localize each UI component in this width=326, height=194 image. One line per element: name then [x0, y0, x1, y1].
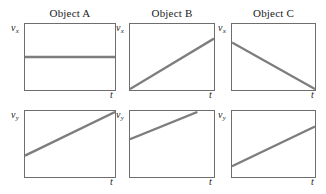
plot-panel-a-vx: [24, 23, 116, 91]
velocity-graphs-figure: Object A Object B Object C vx t vx t vx …: [0, 0, 326, 194]
column-title-object-b: Object B: [129, 7, 215, 19]
x-axis-label-t-a-vx: t: [110, 90, 113, 100]
data-line-c-vx: [232, 42, 315, 89]
x-axis-label-t-b-vx: t: [209, 90, 212, 100]
vy-symbol-c: v: [218, 109, 222, 120]
y-axis-label-vx-c: vx: [218, 23, 226, 35]
y-axis-label-vx-b: vx: [116, 23, 124, 35]
vx-subscript-a: x: [16, 27, 19, 35]
vy-symbol-a: v: [11, 109, 15, 120]
plot-panel-a-vy: [24, 110, 116, 178]
x-axis-label-t-c-vy: t: [311, 177, 314, 187]
y-axis-label-vy-a: vy: [11, 110, 19, 122]
x-axis-label-t-a-vy: t: [110, 177, 113, 187]
vy-symbol-b: v: [116, 109, 120, 120]
column-title-object-a: Object A: [24, 7, 116, 19]
y-axis-label-vx-a: vx: [11, 23, 19, 35]
column-title-object-c: Object C: [231, 7, 316, 19]
vy-subscript-b: y: [121, 114, 124, 122]
vx-symbol-a: v: [11, 22, 15, 33]
plot-panel-c-vx: [231, 23, 316, 91]
plot-panel-b-vx: [129, 23, 215, 91]
vx-symbol-c: v: [218, 22, 222, 33]
vx-subscript-b: x: [121, 27, 124, 35]
data-line-a-vy: [25, 112, 115, 156]
plot-panel-c-vy: [231, 110, 316, 178]
vx-symbol-b: v: [116, 22, 120, 33]
vy-subscript-c: y: [223, 114, 226, 122]
plot-panel-b-vy: [129, 110, 215, 178]
data-line-c-vy: [232, 127, 315, 167]
plot-line-b-vy-svg: [130, 111, 214, 177]
plot-line-c-vx-svg: [232, 24, 315, 90]
plot-line-c-vy-svg: [232, 111, 315, 177]
data-line-b-vx: [130, 39, 214, 89]
x-axis-label-t-b-vy: t: [209, 177, 212, 187]
vy-subscript-a: y: [16, 114, 19, 122]
plot-line-a-vx-svg: [25, 24, 115, 90]
y-axis-label-vy-c: vy: [218, 110, 226, 122]
vx-subscript-c: x: [223, 27, 226, 35]
data-line-b-vy: [130, 112, 197, 139]
plot-line-b-vx-svg: [130, 24, 214, 90]
x-axis-label-t-c-vx: t: [311, 90, 314, 100]
plot-line-a-vy-svg: [25, 111, 115, 177]
y-axis-label-vy-b: vy: [116, 110, 124, 122]
